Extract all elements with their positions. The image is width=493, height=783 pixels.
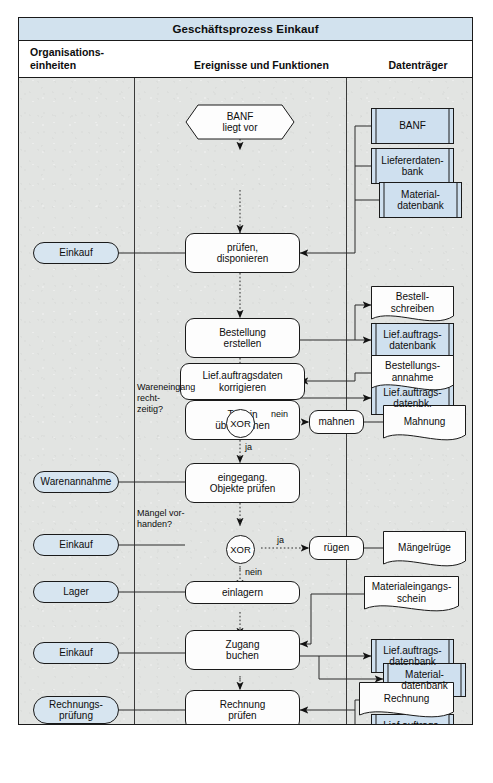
database-label: Material-datenbank xyxy=(392,669,457,692)
document-label: Mahnung xyxy=(404,416,446,433)
edge-label-ja-ruegen: ja xyxy=(277,535,284,546)
column-header-functions: Ereignisse und Funktionen xyxy=(164,59,359,72)
column-header-row: Organisations-einheiten Ereignisse und F… xyxy=(19,41,472,78)
org-unit-rechnungspruefung[interactable]: Rechnungs-prüfung xyxy=(33,696,119,724)
function-eingegangene-objekte-pruefen[interactable]: eingegang.Objekte prüfen xyxy=(185,463,300,503)
function-label: Rechnungprüfen xyxy=(220,699,266,722)
org-unit-einkauf-1[interactable]: Einkauf xyxy=(33,242,119,264)
function-label: prüfen,disponieren xyxy=(217,242,269,265)
org-unit-label: Einkauf xyxy=(59,647,92,659)
org-unit-label: Einkauf xyxy=(59,247,92,259)
org-unit-einkauf-3[interactable]: Einkauf xyxy=(33,642,119,664)
function-pruefen-disponieren[interactable]: prüfen,disponieren xyxy=(185,233,300,273)
org-unit-einkauf-2[interactable]: Einkauf xyxy=(33,534,119,556)
document-mahnung[interactable]: Mahnung xyxy=(383,405,466,443)
document-label: Mängelrüge xyxy=(398,542,451,559)
edge-label-wareneingang-condition: Wareneingangrecht-zeitig? xyxy=(137,382,195,415)
connector-label: XOR xyxy=(230,418,251,430)
database-label: Liefererdaten-bank xyxy=(372,155,452,178)
edge-label-nein-einlagern: nein xyxy=(245,567,262,578)
function-bestellung-erstellen[interactable]: Bestellungerstellen xyxy=(185,318,300,358)
function-label: Zugangbuchen xyxy=(226,639,260,662)
event-label: BANFliegt vor xyxy=(222,111,257,134)
connector-xor-maengel[interactable]: XOR xyxy=(226,535,255,564)
column-header-org: Organisations-einheiten xyxy=(30,46,104,71)
org-unit-lager[interactable]: Lager xyxy=(33,581,119,603)
document-bestellschreiben[interactable]: Bestell-schreiben xyxy=(371,286,454,324)
diagram-canvas: Einkauf Warenannahme Einkauf Lager Einka… xyxy=(19,78,472,724)
column-header-data: Datenträger xyxy=(364,59,472,72)
connector-label: XOR xyxy=(230,544,251,556)
document-label: Materialeingangs-schein xyxy=(372,581,452,609)
page-title: Geschäftsprozess Einkauf xyxy=(172,23,318,35)
database-liefauftragsdatenbank-1[interactable]: Lief.auftrags-datenbank xyxy=(371,323,454,357)
process-diagram-page: Geschäftsprozess Einkauf Organisations-e… xyxy=(0,0,493,783)
event-banf-liegt-vor[interactable]: BANFliegt vor xyxy=(185,104,295,140)
edge-label-maengel-condition: Mängel vor-handen? xyxy=(137,508,185,530)
database-label: Lief.auftrags-datenbank xyxy=(374,720,450,725)
function-label: einlagern xyxy=(222,587,263,599)
database-liefererdatenbank[interactable]: Liefererdaten-bank xyxy=(371,148,454,184)
function-rechnung-pruefen[interactable]: Rechnungprüfen xyxy=(185,690,300,724)
database-label: Lief.auftrags-datenbank xyxy=(374,329,450,352)
database-label: Material-datenbank xyxy=(388,189,453,212)
function-einlagern[interactable]: einlagern xyxy=(185,581,300,604)
function-label: Lief.auftragsdatenkorrigieren xyxy=(202,370,282,393)
function-label: mahnen xyxy=(318,416,354,428)
database-label: Lief.auftrags-datenbank xyxy=(374,645,450,668)
database-banf[interactable]: BANF xyxy=(371,108,454,144)
edge-label-nein-mahnen: nein xyxy=(271,409,288,420)
function-mahnen[interactable]: mahnen xyxy=(309,410,364,434)
org-unit-label: Rechnungs-prüfung xyxy=(49,699,103,722)
database-label: Lief.auftrags-datenbk. xyxy=(374,387,450,410)
function-label: rügen xyxy=(324,542,350,554)
document-label: Rechnung xyxy=(384,693,430,710)
org-unit-label: Einkauf xyxy=(59,539,92,551)
connector-xor-wareneingang[interactable]: XOR xyxy=(226,409,255,438)
edge-label-ja-eingang: ja xyxy=(245,442,252,453)
function-ruegen[interactable]: rügen xyxy=(309,536,364,560)
org-unit-warenannahme[interactable]: Warenannahme xyxy=(33,471,119,493)
org-unit-label: Lager xyxy=(63,586,89,598)
function-zugang-buchen[interactable]: Zugangbuchen xyxy=(185,630,300,670)
database-materialdatenbank-1[interactable]: Material-datenbank xyxy=(379,182,462,218)
document-label: Bestell-schreiben xyxy=(391,291,434,319)
diagram-title-band: Geschäftsprozess Einkauf xyxy=(19,18,472,41)
function-label: Bestellungerstellen xyxy=(219,327,266,350)
function-label: eingegang.Objekte prüfen xyxy=(210,472,276,495)
database-label: BANF xyxy=(390,120,435,132)
document-materialeingangsschein[interactable]: Materialeingangs-schein xyxy=(364,576,459,614)
function-liefauftragsdaten-korrigieren[interactable]: Lief.auftragsdatenkorrigieren xyxy=(180,363,305,400)
diagram-frame: Geschäftsprozess Einkauf Organisations-e… xyxy=(18,17,473,725)
org-unit-label: Warenannahme xyxy=(41,476,112,488)
document-maengelruege[interactable]: Mängelrüge xyxy=(383,531,466,569)
document-label: Bestellungs-annahme xyxy=(385,360,440,388)
